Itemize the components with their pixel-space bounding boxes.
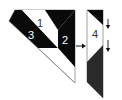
label-1: 1 bbox=[37, 17, 43, 29]
label-4: 4 bbox=[92, 28, 98, 40]
right-strip-piece bbox=[87, 10, 103, 98]
down-arrow-icon-bottom bbox=[106, 40, 110, 52]
folding-diagram: 1 2 3 4 bbox=[0, 0, 122, 100]
right-arrow-icon bbox=[76, 44, 86, 49]
label-2: 2 bbox=[62, 34, 68, 46]
down-arrow-icon-top bbox=[106, 19, 110, 29]
label-3: 3 bbox=[28, 29, 34, 41]
